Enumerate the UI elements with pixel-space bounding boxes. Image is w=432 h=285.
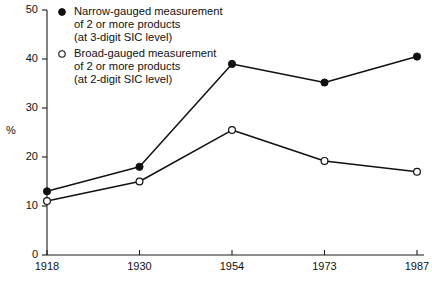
data-point-open-circle [44,198,51,205]
data-point-filled-circle [136,163,143,170]
data-point-filled-circle [413,53,420,60]
x-tick-label: 1954 [220,260,244,272]
y-tick-label: 10 [26,199,38,211]
legend-entry-0-line-2: of 2 or more products [74,18,181,30]
chart-root: 01020304050 19181930195419731987 % Narro… [0,0,432,285]
data-point-filled-circle [228,60,235,67]
legend-entry-0-line-1: Narrow-gauged measurement [74,5,224,17]
y-tick-label: 0 [32,248,38,260]
y-axis-ticks: 01020304050 [26,3,47,260]
y-tick-label: 20 [26,150,38,162]
data-point-open-circle [229,127,236,134]
x-tick-label: 1918 [35,260,59,272]
y-tick-label: 40 [26,52,38,64]
series-1 [44,127,421,205]
chart-legend: Narrow-gauged measurement of 2 or more p… [59,5,224,85]
x-axis-ticks: 19181930195419731987 [35,250,429,272]
data-point-open-circle [414,168,421,175]
line-chart: 01020304050 19181930195419731987 % Narro… [0,0,432,285]
data-point-filled-circle [43,188,50,195]
data-point-open-circle [321,158,328,165]
data-point-open-circle [136,178,143,185]
legend-entry-0-line-3: (at 3-digit SIC level) [74,31,173,43]
series-line-1 [47,130,417,201]
x-tick-label: 1987 [405,260,429,272]
legend-marker-filled-circle [59,9,66,16]
legend-marker-open-circle [59,51,65,57]
legend-entry-1-line-3: (at 2-digit SIC level) [74,73,173,85]
x-tick-label: 1973 [312,260,336,272]
y-tick-label: 50 [26,3,38,15]
x-tick-label: 1930 [127,260,151,272]
y-tick-label: 30 [26,101,38,113]
y-axis-unit-label: % [6,124,16,136]
legend-entry-1-line-2: of 2 or more products [74,60,181,72]
legend-entry-1-line-1: Broad-gauged measurement [74,47,217,59]
data-point-filled-circle [321,79,328,86]
